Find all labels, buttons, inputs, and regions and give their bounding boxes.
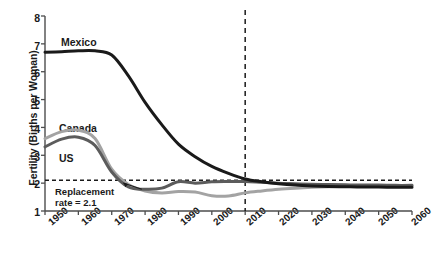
plot-area (0, 0, 436, 253)
fertility-rate-line-chart: Fertility (Births per Woman) 8 7 6 5 4 3… (0, 0, 436, 253)
series-line-mexico (45, 50, 412, 187)
